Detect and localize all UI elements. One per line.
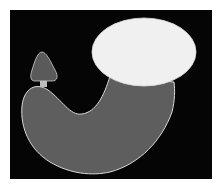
diagram-canvas [0,0,217,189]
elliptical-cap [92,18,196,86]
figure [0,0,217,189]
